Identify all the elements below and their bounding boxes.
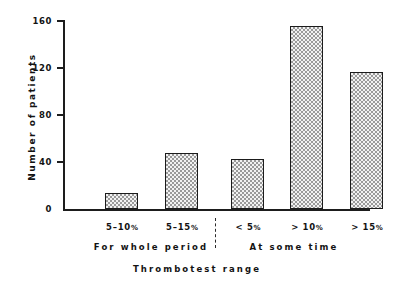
x-tick-label-5-10: 5–10%: [89, 222, 155, 232]
y-tick-label-80: 80: [0, 110, 52, 120]
y-tick-label-120: 120: [0, 63, 52, 73]
y-tick-label-40: 40: [0, 157, 52, 167]
x-tick-range-gt-15: > 15: [351, 222, 376, 232]
x-tick-unit-3: %: [316, 224, 323, 232]
bar-lt-5-percent: [231, 159, 264, 210]
bar-gt-15-percent: [350, 72, 383, 210]
x-tick-range-5-10: 5–10: [106, 222, 131, 232]
bar-gt-10-percent: [290, 26, 323, 209]
x-tick-range-lt-5: < 5: [235, 222, 253, 232]
bar-5-15-percent: [165, 153, 198, 209]
x-tick-unit-4: %: [376, 224, 383, 232]
x-tick-unit-0: %: [131, 224, 138, 232]
y-tick-label-0: 0: [0, 204, 52, 214]
x-tick-unit-2: %: [254, 224, 261, 232]
y-axis-line: [63, 20, 65, 211]
x-tick-label-lt-5: < 5%: [215, 222, 281, 232]
x-tick-range-gt-10: > 10: [291, 222, 316, 232]
y-tick-label-160: 160: [0, 16, 52, 26]
x-tick-label-5-15: 5–15%: [149, 222, 215, 232]
group-label-for-whole-period: For whole period: [86, 242, 216, 252]
x-axis-line: [63, 209, 370, 211]
x-tick-unit-1: %: [191, 224, 198, 232]
x-tick-range-5-15: 5–15: [166, 222, 191, 232]
x-tick-label-gt-10: > 10%: [274, 222, 340, 232]
group-label-at-some-time: At some time: [224, 242, 364, 252]
x-tick-label-gt-15: > 15%: [334, 222, 394, 232]
bar-chart: Number of patients 160 120 80 40 0 5–10%…: [0, 0, 394, 284]
x-axis-title: Thrombotest range: [0, 264, 394, 274]
bar-5-10-percent: [105, 193, 138, 210]
